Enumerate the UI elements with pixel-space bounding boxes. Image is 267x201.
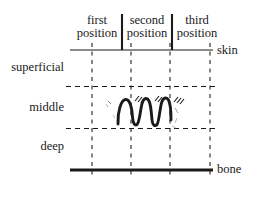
sketch-stroke-right-a	[175, 108, 178, 113]
depth-label-superficial: superficial	[0, 61, 64, 74]
boundary-label-skin: skin	[217, 44, 238, 57]
figure-canvas: first position second position third pos…	[0, 0, 267, 201]
sketch-stroke-right-b	[175, 118, 177, 123]
column-header-first-line2: position	[71, 27, 123, 40]
column-header-second-position: second position	[121, 14, 173, 40]
sketch-stroke-left-c	[113, 115, 115, 118]
wavy-needle-track	[106, 96, 184, 128]
hatch-group-3	[174, 97, 184, 104]
depth-label-middle: middle	[0, 101, 64, 114]
hatch-group-2	[155, 96, 165, 103]
boundary-label-bone: bone	[217, 163, 241, 176]
column-header-third-position: third position	[171, 14, 223, 40]
squiggle-path	[118, 98, 171, 126]
sketch-stroke-left-a	[108, 101, 111, 104]
sketch-stroke-right-c	[172, 126, 176, 128]
sketch-stroke-left-b	[106, 104, 108, 107]
column-header-third-line2: position	[171, 27, 223, 40]
column-header-second-line2: position	[121, 27, 173, 40]
column-header-first-position: first position	[71, 14, 123, 40]
depth-label-deep: deep	[0, 140, 64, 153]
